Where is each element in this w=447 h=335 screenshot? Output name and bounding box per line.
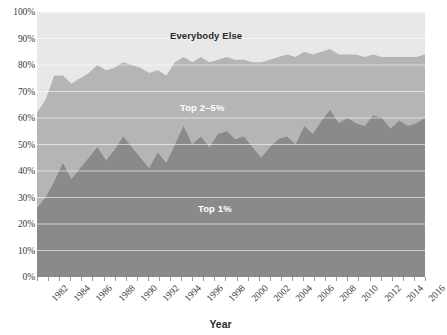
- x-axis-tick-label: 1988: [116, 283, 137, 304]
- x-axis-tick: [281, 277, 282, 281]
- x-axis-tick: [81, 277, 82, 281]
- y-axis-tick-label: 50%: [3, 140, 35, 150]
- x-axis-tick: [325, 277, 326, 281]
- x-axis-tick-label: 2010: [360, 283, 381, 304]
- x-axis-tick: [181, 277, 182, 281]
- x-axis-tick-label: 1996: [205, 283, 226, 304]
- x-axis-tick: [392, 277, 393, 281]
- x-axis-tick-label: 1982: [50, 283, 71, 304]
- x-axis-tick: [270, 277, 271, 281]
- x-axis-tick: [303, 277, 304, 281]
- plot-area: [37, 12, 425, 277]
- x-axis-tick: [92, 277, 93, 281]
- y-axis: 0%10%20%30%40%50%60%70%80%90%100%: [0, 0, 35, 335]
- x-axis-tick: [237, 277, 238, 281]
- y-axis-tick-label: 0%: [3, 272, 35, 282]
- x-axis-tick: [59, 277, 60, 281]
- x-axis-tick-label: 1984: [72, 283, 93, 304]
- x-axis-tick-label: 2006: [316, 283, 337, 304]
- x-axis-tick-label: 2000: [249, 283, 270, 304]
- x-axis-tick: [225, 277, 226, 281]
- x-axis-tick: [292, 277, 293, 281]
- series-label-top-2-5: Top 2–5%: [180, 102, 224, 113]
- x-axis-tick: [170, 277, 171, 281]
- x-axis-tick: [70, 277, 71, 281]
- x-axis-tick: [358, 277, 359, 281]
- x-axis-tick: [314, 277, 315, 281]
- series-label-top-1: Top 1%: [198, 203, 232, 214]
- x-axis-tick: [259, 277, 260, 281]
- x-axis-tick: [336, 277, 337, 281]
- x-axis-title: Year: [0, 318, 441, 330]
- x-axis-tick: [347, 277, 348, 281]
- y-axis-tick-label: 60%: [3, 113, 35, 123]
- x-axis-tick: [159, 277, 160, 281]
- y-axis-tick-label: 20%: [3, 219, 35, 229]
- x-axis-tick-label: 2014: [404, 283, 425, 304]
- x-axis-tick: [192, 277, 193, 281]
- x-axis-tick: [126, 277, 127, 281]
- x-axis-tick: [248, 277, 249, 281]
- x-axis-tick: [48, 277, 49, 281]
- x-axis-tick: [104, 277, 105, 281]
- x-axis-tick-label: 2008: [338, 283, 359, 304]
- x-axis-tick-label: 2004: [293, 283, 314, 304]
- y-axis-tick-label: 100%: [3, 7, 35, 17]
- x-axis-tick: [403, 277, 404, 281]
- x-axis-tick: [414, 277, 415, 281]
- x-axis-tick: [381, 277, 382, 281]
- x-axis-tick-label: 2016: [426, 283, 447, 304]
- x-axis-tick: [137, 277, 138, 281]
- x-axis-tick-label: 1986: [94, 283, 115, 304]
- y-axis-tick-label: 10%: [3, 246, 35, 256]
- x-axis-tick: [425, 277, 426, 281]
- y-axis-tick-label: 40%: [3, 166, 35, 176]
- x-axis-tick-label: 2002: [271, 283, 292, 304]
- x-axis-tick-label: 1990: [138, 283, 159, 304]
- x-axis-tick: [203, 277, 204, 281]
- x-axis-tick: [148, 277, 149, 281]
- x-axis-tick-label: 1998: [227, 283, 248, 304]
- series-label-everybody-else: Everybody Else: [170, 30, 242, 41]
- x-axis-tick: [115, 277, 116, 281]
- x-axis-tick: [37, 277, 38, 281]
- stacked-area-svg: [37, 12, 425, 277]
- x-axis-tick: [370, 277, 371, 281]
- y-axis-tick-label: 70%: [3, 87, 35, 97]
- x-axis-tick: [214, 277, 215, 281]
- y-axis-tick-label: 80%: [3, 60, 35, 70]
- y-axis-tick-label: 30%: [3, 193, 35, 203]
- x-axis-tick-label: 1992: [160, 283, 181, 304]
- x-axis-tick-label: 2012: [382, 283, 403, 304]
- x-axis-tick-label: 1994: [183, 283, 204, 304]
- y-axis-tick-label: 90%: [3, 34, 35, 44]
